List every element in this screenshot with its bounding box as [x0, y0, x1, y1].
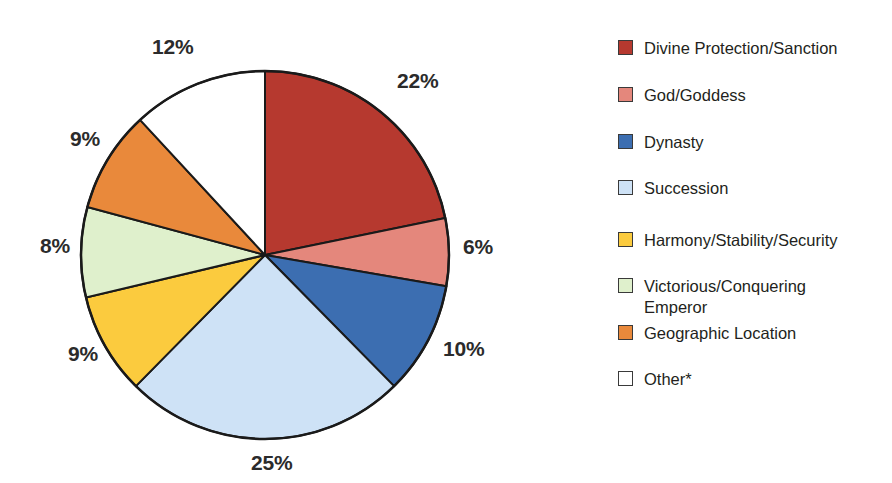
legend-item-label: Succession — [644, 178, 728, 199]
legend-color-swatch-icon — [618, 371, 633, 386]
pie-slice-percent-label: 8% — [40, 235, 70, 256]
legend-item[interactable]: God/Goddess — [618, 85, 746, 106]
pie-chart-plot-area: 22%6%10%25%9%8%9%12% — [0, 0, 600, 483]
legend-item[interactable]: Victorious/Conquering Emperor — [618, 276, 806, 318]
legend-item-label: Geographic Location — [644, 323, 796, 344]
legend-color-swatch-icon — [618, 325, 633, 340]
pie-slice-percent-label: 6% — [463, 236, 493, 257]
pie-slice-percent-label: 22% — [397, 70, 438, 91]
legend-color-swatch-icon — [618, 278, 633, 293]
legend-color-swatch-icon — [618, 180, 633, 195]
pie-slice-percent-label: 25% — [251, 452, 292, 473]
pie-slice-percent-label: 12% — [152, 36, 193, 57]
legend-item[interactable]: Divine Protection/Sanction — [618, 38, 838, 59]
legend-item-label: Divine Protection/Sanction — [644, 38, 838, 59]
pie-chart-figure: 22%6%10%25%9%8%9%12% Divine Protection/S… — [0, 0, 892, 483]
legend-color-swatch-icon — [618, 232, 633, 247]
pie-slice-percent-label: 9% — [70, 128, 100, 149]
legend-item-label: Other* — [644, 369, 692, 390]
pie-slice-percent-label: 9% — [68, 343, 98, 364]
legend-item[interactable]: Succession — [618, 178, 728, 199]
legend-item-label: Harmony/Stability/Security — [644, 230, 837, 251]
pie-chart-svg — [0, 0, 600, 483]
legend-color-swatch-icon — [618, 40, 633, 55]
legend-item-label: Dynasty — [644, 132, 704, 153]
legend-item[interactable]: Other* — [618, 369, 692, 390]
legend-item-label: God/Goddess — [644, 85, 746, 106]
legend-item[interactable]: Dynasty — [618, 132, 704, 153]
legend-item[interactable]: Geographic Location — [618, 323, 796, 344]
pie-slice-percent-label: 10% — [443, 338, 484, 359]
legend-color-swatch-icon — [618, 134, 633, 149]
legend-item-label: Victorious/Conquering Emperor — [644, 276, 806, 318]
legend-item[interactable]: Harmony/Stability/Security — [618, 230, 837, 251]
legend-color-swatch-icon — [618, 87, 633, 102]
